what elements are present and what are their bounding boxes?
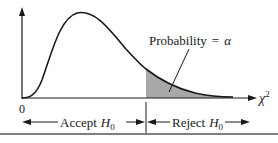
reject-left-arrowhead-icon (147, 119, 156, 125)
reject-right-arrowhead-icon (241, 119, 250, 125)
y-axis-arrowhead-icon (19, 7, 25, 16)
density-curve (22, 13, 233, 98)
probability-annotation: Probability=α (149, 33, 232, 48)
reject-region-label: RejectH0 (172, 115, 224, 132)
rejection-region-shading (146, 69, 233, 98)
x-axis-label: χ2 (257, 89, 270, 106)
accept-right-arrowhead-icon (136, 119, 145, 125)
accept-left-arrowhead-icon (22, 119, 31, 125)
x-axis-arrowhead-icon (248, 95, 257, 101)
accept-region-label: AcceptH0 (60, 115, 115, 132)
chi-square-diagram: χ2 0 Probability=α AcceptH0 RejectH0 (0, 0, 278, 143)
annotation-leader-line (169, 49, 189, 92)
origin-label: 0 (19, 102, 25, 116)
